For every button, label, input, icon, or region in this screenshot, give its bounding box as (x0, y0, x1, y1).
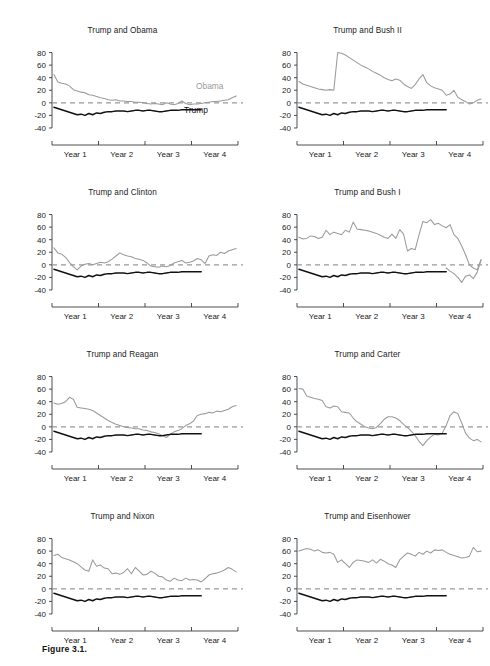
x-tick-label: Year 4 (203, 636, 226, 645)
y-tick-label: 0 (42, 99, 47, 108)
series-line-trump (54, 593, 201, 601)
panel-title: Trump and Bush I (245, 186, 490, 199)
y-tick-label: 60 (37, 61, 46, 70)
series-line-eisenhower (299, 547, 481, 567)
y-tick-label: 0 (42, 585, 47, 594)
y-tick-label: 0 (42, 423, 47, 432)
x-tick-label: Year 1 (64, 312, 87, 321)
y-tick-label: 80 (282, 373, 291, 382)
y-tick-label: -20 (34, 273, 46, 282)
x-tick-label: Year 3 (157, 636, 180, 645)
y-tick-label: 60 (37, 385, 46, 394)
panel-title: Trump and Obama (0, 24, 245, 37)
y-tick-label: -20 (279, 435, 291, 444)
y-tick-label: -40 (279, 448, 291, 457)
y-tick-label: 20 (282, 572, 291, 581)
panel-title: Trump and Eisenhower (245, 510, 490, 523)
y-tick-label: 20 (282, 410, 291, 419)
y-tick-label: 40 (282, 398, 291, 407)
x-tick-label: Year 3 (157, 474, 180, 483)
y-tick-label: 80 (282, 211, 291, 220)
series-line-bush-i (299, 220, 481, 270)
panel-title: Trump and Bush II (245, 24, 490, 37)
y-tick-label: 20 (37, 572, 46, 581)
series-line-trump (299, 431, 446, 439)
y-tick-label: 80 (282, 535, 291, 544)
series-line-trump (54, 107, 201, 115)
y-tick-label: 0 (42, 261, 47, 270)
x-tick-label: Year 4 (203, 150, 226, 159)
series-line-bush-i-continued (446, 260, 481, 283)
series-line-trump (299, 269, 446, 277)
y-tick-label: 60 (37, 547, 46, 556)
y-tick-label: -40 (279, 124, 291, 133)
x-tick-label: Year 1 (309, 474, 332, 483)
x-tick-label: Year 1 (309, 636, 332, 645)
panel-trump-and-reagan: Trump and Reagan806040200-20-40Year 1Yea… (0, 348, 245, 489)
x-tick-label: Year 4 (448, 150, 471, 159)
panel-trump-and-nixon: Trump and Nixon806040200-20-40Year 1Year… (0, 510, 245, 651)
x-tick-label: Year 2 (355, 474, 378, 483)
y-tick-label: -20 (34, 597, 46, 606)
y-tick-label: 60 (37, 223, 46, 232)
y-tick-label: 20 (282, 86, 291, 95)
y-tick-label: 40 (37, 236, 46, 245)
x-tick-label: Year 3 (157, 150, 180, 159)
y-tick-label: -40 (34, 448, 46, 457)
x-tick-label: Year 1 (309, 312, 332, 321)
plot-area: 806040200-20-40Year 1Year 2Year 3Year 4 (245, 523, 490, 651)
figure-caption: Figure 3.1. (42, 644, 87, 654)
x-tick-label: Year 2 (110, 474, 133, 483)
series-line-trump (54, 431, 201, 439)
series-line-nixon (54, 554, 236, 582)
series-line-reagan (54, 397, 236, 437)
panel-title: Trump and Reagan (0, 348, 245, 361)
panel-trump-and-bush-ii: Trump and Bush II806040200-20-40Year 1Ye… (245, 24, 490, 165)
x-tick-label: Year 4 (203, 312, 226, 321)
y-tick-label: -40 (34, 610, 46, 619)
x-tick-label: Year 4 (448, 636, 471, 645)
y-tick-label: 80 (37, 211, 46, 220)
y-tick-label: 80 (282, 49, 291, 58)
x-tick-label: Year 2 (355, 312, 378, 321)
panel-title: Trump and Nixon (0, 510, 245, 523)
y-tick-label: 0 (287, 585, 292, 594)
y-tick-label: 60 (282, 385, 291, 394)
y-tick-label: 40 (282, 236, 291, 245)
y-tick-label: 80 (37, 535, 46, 544)
x-tick-label: Year 2 (110, 636, 133, 645)
x-tick-label: Year 4 (448, 312, 471, 321)
y-tick-label: -20 (279, 597, 291, 606)
figure-container: Trump and Obama806040200-20-40Year 1Year… (0, 0, 490, 666)
y-tick-label: -40 (34, 286, 46, 295)
panel-trump-and-bush-i: Trump and Bush I806040200-20-40Year 1Yea… (245, 186, 490, 327)
y-tick-label: -20 (34, 435, 46, 444)
x-tick-label: Year 3 (402, 312, 425, 321)
plot-area: 806040200-20-40Year 1Year 2Year 3Year 4 (0, 361, 245, 489)
y-tick-label: -20 (279, 273, 291, 282)
series-line-carter (299, 388, 481, 445)
series-line-trump (299, 107, 446, 115)
x-tick-label: Year 2 (110, 150, 133, 159)
y-tick-label: -20 (34, 111, 46, 120)
annotation-trump: Trump (184, 105, 208, 115)
panel-title: Trump and Carter (245, 348, 490, 361)
series-line-trump (299, 593, 446, 601)
series-line-clinton (54, 248, 236, 270)
x-tick-label: Year 3 (402, 474, 425, 483)
y-tick-label: 60 (282, 61, 291, 70)
x-tick-label: Year 1 (64, 150, 87, 159)
plot-area: 806040200-20-40Year 1Year 2Year 3Year 4 (245, 361, 490, 489)
y-tick-label: 20 (37, 86, 46, 95)
panel-trump-and-clinton: Trump and Clinton806040200-20-40Year 1Ye… (0, 186, 245, 327)
x-tick-label: Year 3 (157, 312, 180, 321)
x-tick-label: Year 2 (355, 150, 378, 159)
y-tick-label: 0 (287, 423, 292, 432)
y-tick-label: 40 (37, 74, 46, 83)
plot-area: 806040200-20-40Year 1Year 2Year 3Year 4 (245, 37, 490, 165)
panel-trump-and-carter: Trump and Carter806040200-20-40Year 1Yea… (245, 348, 490, 489)
y-tick-label: 20 (37, 248, 46, 257)
y-tick-label: -40 (279, 286, 291, 295)
panel-trump-and-eisenhower: Trump and Eisenhower806040200-20-40Year … (245, 510, 490, 651)
y-tick-label: 60 (282, 547, 291, 556)
